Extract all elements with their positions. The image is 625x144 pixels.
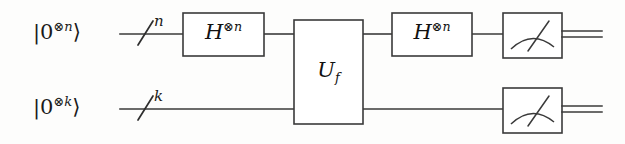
oracle-subscript: f (335, 70, 340, 85)
gate-box-measure-bottom[interactable] (503, 88, 562, 133)
hadamard-left-exponent: n (234, 19, 242, 34)
hadamard-left-symbol: H (205, 20, 223, 44)
hadamard-right-tensor: ⊗ (432, 19, 443, 34)
oracle-symbol: U (317, 58, 335, 82)
ket-bar-zero-bottom: |0 (33, 95, 53, 119)
quantum-circuit-figure: |0⊗n⟩ |0⊗k⟩ n k H⊗n Uf H⊗n (0, 0, 625, 144)
gate-box-measure-top[interactable] (503, 13, 562, 58)
ket-tensor-bottom: ⊗ (53, 94, 64, 109)
ket-tensor-top: ⊗ (53, 19, 64, 34)
measure-top-frame (503, 13, 562, 58)
hadamard-right-symbol: H (413, 20, 431, 44)
bundle-slash-top-icon (138, 21, 153, 45)
hadamard-left-tensor: ⊗ (223, 19, 234, 34)
ket-close-bottom: ⟩ (72, 95, 80, 119)
gate-label-hadamard-left: H⊗n (183, 22, 264, 43)
gate-label-oracle: Uf (294, 60, 363, 81)
gate-label-hadamard-right: H⊗n (392, 22, 472, 43)
bundle-size-label-top: n (154, 14, 164, 29)
bundle-size-label-bottom: k (154, 89, 163, 104)
ket-close-top: ⟩ (73, 20, 81, 44)
ket-index-top: n (64, 19, 72, 34)
input-state-label-top: |0⊗n⟩ (33, 22, 81, 43)
measure-bottom-frame (503, 88, 562, 133)
input-state-label-bottom: |0⊗k⟩ (33, 97, 80, 118)
bundle-slash-bottom-icon (138, 96, 153, 120)
ket-bar-zero-top: |0 (33, 20, 53, 44)
hadamard-right-exponent: n (442, 19, 450, 34)
